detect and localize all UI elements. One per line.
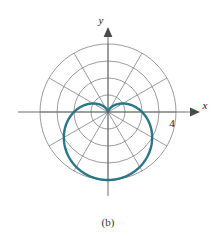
x-axis-arrowhead — [190, 108, 200, 117]
figure-caption: (b) — [102, 216, 115, 229]
polar-figure-container: y x 4 (b) — [0, 0, 216, 237]
y-axis-arrowhead — [104, 27, 113, 37]
x-axis-label: x — [202, 99, 208, 111]
x-axis-tick-label-4: 4 — [169, 117, 175, 129]
polar-plot: y x 4 (b) — [0, 0, 216, 237]
y-axis-label: y — [98, 14, 104, 26]
